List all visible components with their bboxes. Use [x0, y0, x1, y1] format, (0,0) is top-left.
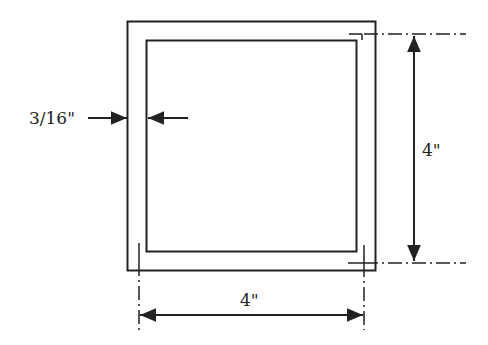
outer-wall [128, 22, 376, 271]
height-label: 4" [422, 140, 441, 160]
width-label: 4" [240, 290, 259, 310]
inner-wall [147, 41, 357, 252]
thickness-label: 3/16" [29, 108, 75, 128]
tube-diagram: 4" 4" 3/16" [0, 0, 488, 345]
